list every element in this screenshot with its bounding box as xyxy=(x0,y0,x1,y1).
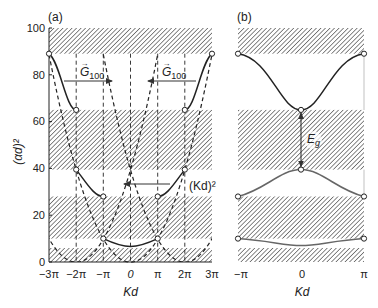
svg-text:−2π: −2π xyxy=(66,268,87,280)
svg-text:π: π xyxy=(360,268,368,280)
panel-a: (a) 0 20 40 60 80 100 (αd)² xyxy=(0,10,266,299)
x-ticks-a: −3π −2π −π 0 π 2π 3π xyxy=(39,268,219,280)
y-tick-20: 20 xyxy=(33,209,45,221)
svg-text:−π: −π xyxy=(96,268,110,280)
y-tick-60: 60 xyxy=(33,115,45,127)
y-ticks: 0 20 40 60 80 100 xyxy=(27,22,52,268)
y-tick-80: 80 xyxy=(33,69,45,81)
kd2-label: (Kd)² xyxy=(189,179,216,193)
band-2-right-curve xyxy=(158,170,185,197)
panel-a-label: (a) xyxy=(48,10,63,24)
y-tick-40: 40 xyxy=(33,162,45,174)
band-structure-figure: (a) 0 20 40 60 80 100 (αd)² xyxy=(0,0,378,308)
svg-text:2π: 2π xyxy=(178,268,192,280)
vector-arrow-icon: → xyxy=(81,59,89,68)
reduced-band-2-curve xyxy=(238,170,364,197)
x-axis-label-b: Kd xyxy=(295,285,310,299)
svg-text:0: 0 xyxy=(127,268,134,280)
y-tick-0: 0 xyxy=(39,256,45,268)
svg-text:π: π xyxy=(154,268,162,280)
band-3-right-curve xyxy=(185,54,212,110)
x-axis-label-a: Kd xyxy=(123,285,138,299)
svg-text:−3π: −3π xyxy=(39,268,60,280)
reduced-band-3-curve xyxy=(238,54,364,110)
x-ticks-b: −π 0 π xyxy=(234,268,368,280)
vector-arrow-icon: → xyxy=(163,59,171,68)
y-tick-100: 100 xyxy=(27,22,45,34)
panel-b: (b) Eg −π 0 xyxy=(234,10,368,299)
forbidden-band-top-b xyxy=(238,28,364,54)
y-axis-label: (αd)² xyxy=(11,138,25,165)
svg-text:0: 0 xyxy=(299,268,305,280)
svg-text:3π: 3π xyxy=(205,268,219,280)
band-3-left-curve xyxy=(49,54,76,110)
svg-text:−π: −π xyxy=(234,268,248,280)
reduced-band-1-curve xyxy=(238,239,364,246)
forbidden-band-top xyxy=(49,28,212,54)
band-2-left-curve xyxy=(76,170,103,197)
forbidden-band-2-b xyxy=(238,197,364,239)
panel-b-label: (b) xyxy=(237,10,252,24)
forbidden-band-1-b xyxy=(238,248,364,262)
